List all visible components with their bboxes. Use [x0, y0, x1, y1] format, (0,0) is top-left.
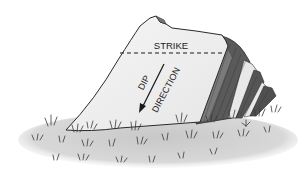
- strike-label: STRIKE: [154, 40, 188, 51]
- strike-dip-diagram: STRIKE DIP DIRECTION: [0, 0, 304, 180]
